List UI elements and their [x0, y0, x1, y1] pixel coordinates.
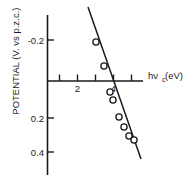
x-ticklabel-2: 2 — [75, 83, 80, 94]
x-axis-title-unit: (eV) — [165, 70, 183, 81]
x-axis-title-main: hν — [148, 70, 158, 81]
data-point — [121, 124, 127, 130]
data-point — [116, 114, 122, 120]
plot-canvas: 2 4 -0.2 0.2 0.4 hν c (eV) — [0, 0, 188, 180]
data-point — [101, 63, 107, 69]
y-ticklabel-0.4: 0.4 — [31, 147, 44, 158]
data-point — [107, 89, 113, 95]
fit-line — [88, 7, 141, 159]
y-axis-title: POTENTIAL (V. vs p.z.c.) — [11, 1, 21, 121]
data-point — [131, 137, 137, 143]
photoemission-threshold-plot: 2 4 -0.2 0.2 0.4 hν c (eV) POTENTIAL (V.… — [0, 0, 188, 180]
y-ticklabel-0.2: 0.2 — [31, 113, 44, 124]
data-point — [93, 39, 99, 45]
data-point — [110, 97, 116, 103]
x-axis-title: hν c (eV) — [148, 70, 183, 83]
y-ticklabel--0.2: -0.2 — [28, 35, 44, 46]
